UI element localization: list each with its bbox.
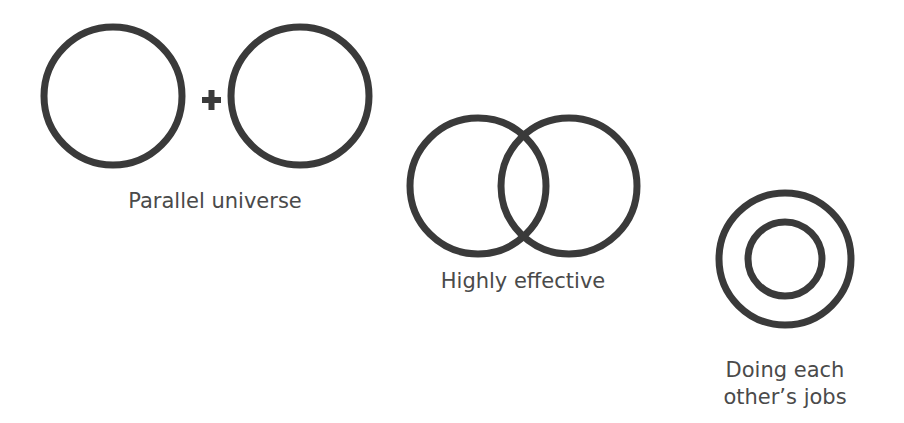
left-overlap-circle <box>410 118 546 254</box>
parallel-universe-label: Parallel universe <box>90 188 340 215</box>
right-overlap-circle <box>501 118 637 254</box>
outer-nested-circle <box>719 193 851 325</box>
doing-each-others-jobs-label: Doing each other’s jobs <box>680 357 890 411</box>
plus-icon <box>202 90 221 110</box>
highly-effective-label: Highly effective <box>398 268 648 295</box>
right-separate-circle <box>231 27 369 165</box>
left-separate-circle <box>44 27 182 165</box>
highly-effective-diagram <box>410 118 637 254</box>
inner-nested-circle <box>748 222 822 296</box>
doing-each-others-jobs-diagram <box>719 193 851 325</box>
parallel-universe-diagram <box>44 27 369 165</box>
